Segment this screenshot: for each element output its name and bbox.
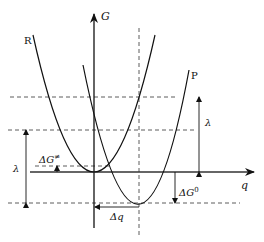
curve-p-label: P (191, 70, 198, 81)
lambda-left-label: λ (12, 163, 19, 174)
activation-energy-sup: ≠ (54, 153, 60, 161)
reaction-energy-sup: 0 (194, 186, 198, 194)
curve-r-label: R (24, 35, 32, 46)
q-axis-label: q (241, 179, 248, 192)
activation-energy-text: ΔG (38, 154, 54, 165)
reaction-energy-label: ΔG0 (178, 186, 199, 198)
displacement-label: Δq (109, 211, 124, 222)
activation-energy-label: ΔG≠ (38, 153, 60, 165)
marcus-diagram: G q R P λ λ ΔG≠ ΔG0 Δq (0, 0, 264, 242)
curve-p (83, 65, 189, 204)
dashed-guides (8, 28, 240, 238)
reaction-energy-text: ΔG (178, 187, 194, 198)
lambda-right-label: λ (204, 117, 211, 128)
g-axis-label: G (101, 10, 110, 23)
